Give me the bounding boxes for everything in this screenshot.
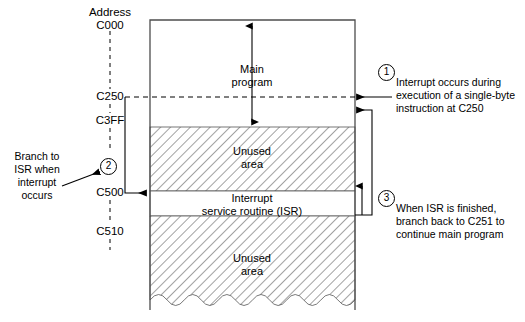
address-label-c500: C500 [78, 186, 142, 200]
address-column-header: Address [78, 6, 142, 20]
address-label-c250: C250 [78, 90, 142, 104]
region-label-main-program-line2: program [202, 76, 302, 89]
annotation-2-line2: ISR when [6, 163, 68, 175]
address-label-c000: C000 [78, 19, 142, 33]
address-label-c3ff: C3FF [78, 114, 142, 128]
annotation-2-line4: occurs [6, 189, 68, 201]
annotation-3-number-badge: 3 [378, 190, 395, 207]
branch-to-isr-path [125, 97, 146, 193]
region-label-unused-lower-line1: Unused [202, 252, 302, 265]
return-to-main-path [355, 110, 372, 215]
annotation-2-line3: interrupt [6, 176, 68, 188]
region-label-isr-line2: service routine (ISR) [177, 205, 327, 218]
diagram-canvas: Address C000 C250 C3FF C500 C510 Main pr… [0, 0, 525, 322]
address-label-c510: C510 [78, 225, 142, 239]
annotation-2-line1: Branch to [6, 150, 68, 162]
annotation-3-line3: continue main program [396, 228, 524, 240]
region-label-unused-upper-line1: Unused [202, 145, 302, 158]
region-label-main-program-line1: Main [202, 63, 302, 76]
region-label-unused-upper-line2: area [202, 158, 302, 171]
annotation-1-line1: Interrupt occurs during [396, 76, 524, 88]
annotation-1-line2: execution of a single-byte [396, 89, 524, 101]
annotation-1-number-badge: 1 [378, 64, 395, 81]
annotation-3-line2: branch back to C251 to [396, 215, 524, 227]
annotation-2-number-badge: 2 [100, 158, 117, 175]
annotation-1-line3: instruction at C250 [396, 102, 524, 114]
region-label-unused-lower-line2: area [202, 265, 302, 278]
region-label-isr-line1: Interrupt [177, 192, 327, 205]
annotation-3-line1: When ISR is finished, [396, 202, 524, 214]
